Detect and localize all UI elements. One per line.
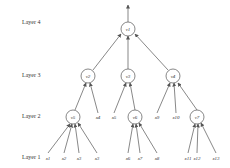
leaf-label: x6 bbox=[125, 156, 131, 161]
edge bbox=[48, 124, 70, 153]
edge bbox=[174, 83, 176, 113]
edge bbox=[75, 124, 79, 153]
node-l3-left-label: v2 bbox=[86, 74, 91, 79]
edge bbox=[197, 124, 198, 153]
edge bbox=[135, 34, 168, 70]
leaf-label: x2 bbox=[61, 156, 67, 161]
leaf-label: x12 bbox=[192, 156, 201, 161]
node-l2-left-label: v5 bbox=[71, 115, 76, 120]
node-root-label: v1 bbox=[126, 27, 131, 32]
node-l2-mid-label: v6 bbox=[133, 115, 138, 120]
edge bbox=[188, 124, 195, 153]
leaf-label: x3 bbox=[76, 156, 82, 161]
input-l2-label: x9 bbox=[154, 115, 160, 120]
edge bbox=[201, 123, 216, 153]
leaf-label: x11 bbox=[184, 156, 192, 161]
edge bbox=[90, 83, 98, 113]
edge bbox=[78, 123, 97, 153]
edge bbox=[128, 124, 133, 153]
input-l2-label: x4 bbox=[95, 115, 101, 120]
leaf-label: x7 bbox=[137, 156, 143, 161]
leaf-label: x3 bbox=[94, 156, 100, 161]
leaf-label: x8 bbox=[154, 156, 160, 161]
node-l3-right-label: v4 bbox=[171, 74, 176, 79]
edge bbox=[93, 34, 121, 70]
hierarchical-tree-diagram: Layer 4 Layer 3 Layer 2 Layer 1 bbox=[0, 0, 230, 168]
edge bbox=[114, 83, 126, 113]
leaf-label: x1 bbox=[45, 156, 51, 161]
input-l2-label: x10 bbox=[171, 115, 180, 120]
node-l3-mid-label: v3 bbox=[126, 74, 131, 79]
edge bbox=[75, 83, 86, 110]
edge bbox=[178, 83, 197, 110]
edge bbox=[139, 123, 157, 153]
node-l2-right-label: v7 bbox=[195, 115, 200, 120]
input-l2-label: x5 bbox=[111, 115, 117, 120]
edge bbox=[136, 124, 140, 153]
leaf-label: x13 bbox=[211, 156, 220, 161]
edge bbox=[130, 83, 135, 110]
edge bbox=[157, 83, 170, 113]
edge bbox=[64, 124, 72, 153]
tree-graph: v1 v2 v3 v4 v5 v6 v7 x4 x5 x9 x10 x1 x2 … bbox=[0, 0, 230, 168]
